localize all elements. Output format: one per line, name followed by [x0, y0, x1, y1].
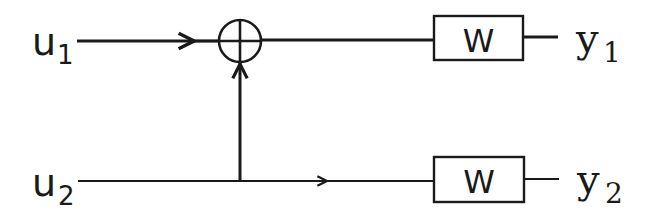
svg-text:u: u: [32, 161, 56, 205]
block-w1: W: [434, 16, 523, 60]
svg-text:2: 2: [605, 177, 623, 210]
svg-text:1: 1: [603, 36, 621, 69]
output-label-y1: y 1: [575, 15, 621, 69]
svg-text:W: W: [463, 22, 495, 60]
svg-text:W: W: [463, 163, 495, 201]
svg-text:u: u: [32, 20, 56, 64]
block-w2: W: [434, 157, 524, 202]
input-label-u2: u 2: [32, 161, 75, 211]
svg-text:1: 1: [57, 40, 74, 70]
svg-text:y: y: [575, 15, 599, 61]
output-label-y2: y 2: [576, 156, 623, 210]
summing-junction: [219, 20, 261, 62]
svg-text:y: y: [576, 156, 600, 202]
input-label-u1: u 1: [32, 20, 74, 70]
svg-text:2: 2: [58, 181, 75, 211]
block-diagram: u 1 u 2 W y 1 W y 2: [0, 0, 652, 224]
